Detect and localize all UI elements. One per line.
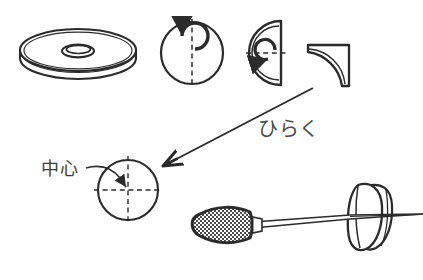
step-awl-piercing-disc bbox=[192, 184, 423, 250]
disc-center-hole-inner bbox=[66, 45, 90, 53]
step-disc-3d bbox=[20, 29, 136, 79]
step-half-disc-fold-horizontal bbox=[246, 21, 286, 85]
awl-handle bbox=[192, 207, 252, 242]
step-circle-crosshair bbox=[86, 156, 162, 224]
craft-diagram-illustration bbox=[0, 0, 423, 280]
diagram-page: □□□ □□□□ □□ bbox=[0, 0, 423, 280]
step-circle-fold-vertical bbox=[161, 19, 223, 87]
step-quarter-wedge bbox=[308, 45, 349, 86]
label-chushin: 中心 bbox=[41, 154, 78, 180]
quarter-wedge-outline bbox=[308, 45, 349, 86]
label-hiraku: ひらく bbox=[258, 113, 320, 142]
awl-needle bbox=[253, 214, 423, 228]
